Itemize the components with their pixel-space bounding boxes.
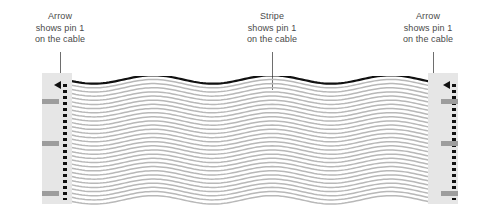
callout-middle-line-2: shows pin 1 [218, 23, 326, 35]
connector-band-right-top [441, 99, 458, 104]
callout-right-line-1: Arrow [382, 11, 474, 23]
callout-middle-line-1: Stripe [218, 11, 326, 23]
ribbon-cable-diagram: Arrow shows pin 1 on the cable Stripe sh… [0, 0, 482, 222]
connector-band-left-bottom [42, 191, 59, 196]
callout-right-arrow: Arrow shows pin 1 on the cable [382, 11, 474, 46]
callout-right-line-3: on the cable [382, 34, 474, 46]
pin1-arrow-icon-left [54, 81, 61, 89]
callout-middle-stripe: Stripe shows pin 1 on the cable [218, 11, 326, 46]
conductor-line [70, 196, 432, 204]
connector-band-right-bottom [441, 191, 458, 196]
cable-conductors-svg [70, 76, 432, 208]
callout-left-line-2: shows pin 1 [14, 23, 106, 35]
connector-band-left-middle [42, 141, 59, 146]
callout-middle-line-3: on the cable [218, 34, 326, 46]
ribbon-cable-body [70, 76, 432, 208]
connector-left [42, 73, 72, 204]
pin-contacts-left [63, 84, 67, 200]
callout-left-arrow: Arrow shows pin 1 on the cable [14, 11, 106, 46]
connector-band-left-top [42, 99, 59, 104]
callout-left-line-3: on the cable [14, 34, 106, 46]
connector-right [428, 73, 458, 204]
callout-right-line-2: shows pin 1 [382, 23, 474, 35]
connector-band-right-middle [441, 141, 458, 146]
pin1-arrow-icon-right [443, 81, 450, 89]
conductor-lines [70, 76, 432, 204]
callout-left-line-1: Arrow [14, 11, 106, 23]
